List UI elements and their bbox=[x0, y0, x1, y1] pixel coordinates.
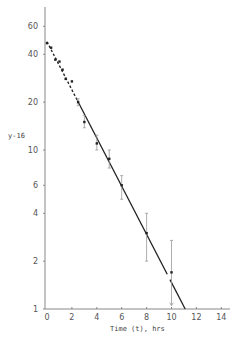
x-tick-label: 8 bbox=[144, 313, 149, 322]
x-tick-label: 2 bbox=[69, 313, 74, 322]
y-tick-label: 10 bbox=[28, 146, 38, 155]
x-tick-label: 4 bbox=[94, 313, 99, 322]
data-point bbox=[58, 60, 60, 62]
data-point bbox=[46, 42, 48, 44]
y-ticks: 124610204060 bbox=[28, 22, 45, 314]
data-point bbox=[64, 78, 66, 80]
x-tick-label: 10 bbox=[166, 313, 176, 322]
data-points bbox=[46, 42, 174, 306]
y-tick-label: 4 bbox=[33, 209, 38, 218]
data-point bbox=[61, 68, 63, 70]
fit-line-segment bbox=[77, 100, 167, 274]
axes: 124610204060 02468101214 bbox=[28, 7, 230, 322]
y-tick-label: 20 bbox=[28, 98, 38, 107]
fit-line-segment bbox=[47, 42, 77, 101]
y-tick-label: 6 bbox=[33, 181, 38, 190]
data-point bbox=[71, 80, 73, 82]
y-tick-label: 1 bbox=[33, 305, 38, 314]
fitted-line bbox=[47, 42, 185, 309]
y-tick-label: 2 bbox=[33, 257, 38, 266]
data-point bbox=[50, 46, 52, 48]
figure-caption-cutoff bbox=[4, 340, 240, 348]
data-point bbox=[170, 240, 174, 305]
x-tick-label: 12 bbox=[191, 313, 201, 322]
chart: 124610204060 02468101214 y-16 Time (t), … bbox=[0, 0, 242, 348]
data-point bbox=[54, 58, 56, 60]
y-tick-label: 40 bbox=[28, 50, 38, 59]
x-tick-label: 6 bbox=[119, 313, 124, 322]
x-tick-label: 0 bbox=[44, 313, 49, 322]
y-tick-label: 60 bbox=[28, 22, 38, 31]
x-tick-label: 14 bbox=[216, 313, 226, 322]
y-axis-title: y-16 bbox=[8, 132, 25, 140]
x-axis-title: Time (t), hrs bbox=[110, 325, 165, 333]
